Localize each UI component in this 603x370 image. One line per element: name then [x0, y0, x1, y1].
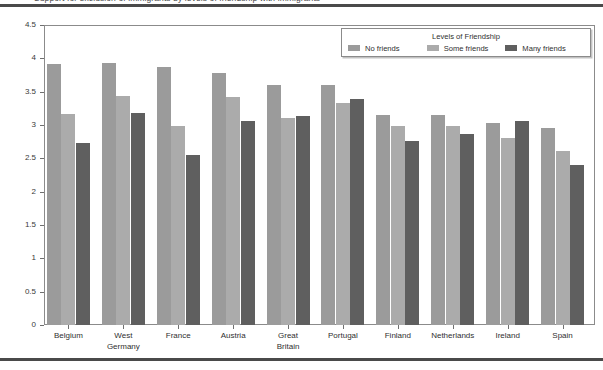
bars-area [45, 26, 594, 325]
top-divider-rule [0, 4, 603, 7]
y-axis-tick-label: 4.5 [25, 19, 36, 30]
y-axis-tick: 3 [0, 125, 44, 126]
legend-swatch [348, 45, 360, 51]
x-axis-tick-mark [68, 325, 69, 329]
y-axis-tick: 1 [0, 258, 44, 259]
legend-item: Many friends [505, 44, 584, 53]
x-axis-tick-mark [288, 325, 289, 329]
bar [61, 114, 75, 325]
legend-label: Some friends [444, 44, 489, 53]
bar [281, 118, 295, 325]
bar [431, 115, 445, 325]
y-axis-tick-mark [40, 325, 44, 326]
bar [405, 141, 419, 325]
y-axis-tick-label: 3.5 [25, 86, 36, 97]
legend-items: No friendsSome friendsMany friends [342, 44, 590, 53]
y-axis-tick-mark [40, 92, 44, 93]
bar [460, 134, 474, 325]
y-axis-tick-label: 1.5 [25, 219, 36, 230]
y-axis-tick-mark [40, 158, 44, 159]
bar [486, 123, 500, 325]
bar [556, 151, 570, 325]
y-axis-tick-mark [40, 292, 44, 293]
bar [501, 138, 515, 325]
bar-group [102, 26, 145, 325]
legend: Levels of Friendship No friendsSome frie… [341, 28, 591, 57]
y-axis-tick: 1.5 [0, 225, 44, 226]
y-axis-tick: 2 [0, 192, 44, 193]
bar-group [376, 26, 419, 325]
y-axis-tick-label: 1 [32, 252, 36, 263]
bar-group [321, 26, 364, 325]
y-axis-tick-mark [40, 58, 44, 59]
y-axis-tick: 3.5 [0, 92, 44, 93]
bar [376, 115, 390, 325]
legend-swatch [427, 45, 439, 51]
x-axis-tick-mark [178, 325, 179, 329]
bar [515, 121, 529, 325]
legend-item: Some friends [427, 44, 506, 53]
y-axis-tick-label: 2 [32, 186, 36, 197]
legend-title: Levels of Friendship [342, 32, 590, 41]
bar [446, 126, 460, 325]
x-axis-tick-mark [398, 325, 399, 329]
bar-group [157, 26, 200, 325]
bar [157, 67, 171, 325]
bar [336, 103, 350, 325]
x-axis-tick-label-line: Britain [243, 342, 333, 353]
bar [116, 96, 130, 325]
bar-group [486, 26, 529, 325]
bar [296, 116, 310, 325]
y-axis-tick-label: 0 [32, 319, 36, 330]
bar-group [541, 26, 584, 325]
legend-item: No friends [348, 44, 427, 53]
bar [241, 121, 255, 325]
y-axis-tick: 0.5 [0, 292, 44, 293]
bar [131, 113, 145, 325]
bar-group [212, 26, 255, 325]
bar [226, 97, 240, 325]
bar-group [47, 26, 90, 325]
x-axis-tick-label: Spain [518, 331, 603, 342]
y-axis-tick-label: 0.5 [25, 286, 36, 297]
y-axis-tick-mark [40, 25, 44, 26]
legend-swatch [505, 45, 517, 51]
bar-group [431, 26, 474, 325]
bar [102, 63, 116, 325]
x-axis-tick-mark [123, 325, 124, 329]
bar [186, 155, 200, 325]
bar [391, 126, 405, 325]
x-axis-tick-mark [233, 325, 234, 329]
y-axis-tick-label: 4 [32, 52, 36, 63]
bar [541, 128, 555, 325]
bar-group [267, 26, 310, 325]
bar [350, 99, 364, 325]
bar [171, 126, 185, 325]
y-axis-tick-mark [40, 192, 44, 193]
bar [570, 165, 584, 325]
y-axis-tick: 4.5 [0, 25, 44, 26]
y-axis-tick-mark [40, 225, 44, 226]
bar [212, 73, 226, 325]
legend-label: Many friends [522, 44, 565, 53]
x-axis-tick-mark [453, 325, 454, 329]
y-axis-tick: 4 [0, 58, 44, 59]
bar [47, 64, 61, 325]
bar [321, 85, 335, 325]
y-axis-tick-mark [40, 258, 44, 259]
bar [76, 143, 90, 325]
legend-label: No friends [365, 44, 400, 53]
x-axis-tick-mark [508, 325, 509, 329]
bottom-divider-rule [0, 358, 603, 361]
bar [267, 85, 281, 325]
y-axis-tick-label: 3 [32, 119, 36, 130]
x-axis-tick-label-line: Spain [518, 331, 603, 342]
x-axis-tick-mark [343, 325, 344, 329]
y-axis-tick-mark [40, 125, 44, 126]
clipped-figure-caption: Support for exclusion of immigrants by l… [0, 0, 603, 3]
y-axis-tick-label: 2.5 [25, 152, 36, 163]
y-axis-tick: 0 [0, 325, 44, 326]
x-axis-tick-mark [563, 325, 564, 329]
x-axis-tick-label-line: Germany [78, 342, 168, 353]
y-axis-tick: 2.5 [0, 158, 44, 159]
